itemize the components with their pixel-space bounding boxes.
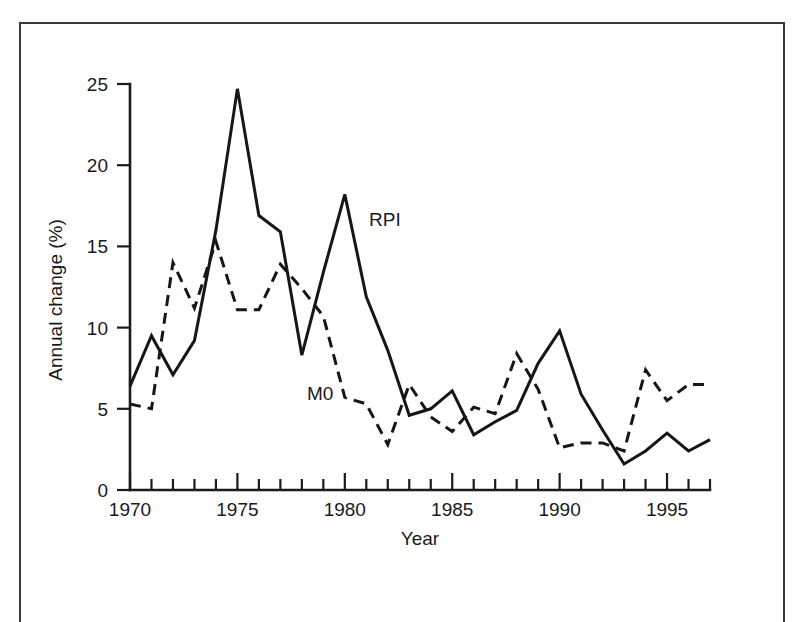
x-tick-label: 1995 bbox=[646, 499, 688, 520]
x-tick-label: 1990 bbox=[538, 499, 580, 520]
series-line-m0 bbox=[130, 242, 710, 451]
y-tick-label: 0 bbox=[97, 480, 108, 501]
series-label-rpi: RPI bbox=[369, 209, 401, 230]
series-line-rpi bbox=[130, 89, 710, 464]
y-axis: 0510152025 bbox=[87, 74, 130, 501]
x-tick-label: 1985 bbox=[431, 499, 473, 520]
y-tick-label: 10 bbox=[87, 318, 108, 339]
data-series-group bbox=[130, 89, 710, 464]
x-tick-label: 1970 bbox=[109, 499, 151, 520]
y-tick-label: 20 bbox=[87, 155, 108, 176]
x-axis-title: Year bbox=[401, 528, 440, 549]
y-tick-label: 25 bbox=[87, 74, 108, 95]
x-tick-label: 1980 bbox=[324, 499, 366, 520]
series-label-m0: M0 bbox=[307, 383, 333, 404]
x-axis: 197019751980198519901995 bbox=[109, 473, 710, 520]
y-axis-title: Annual change (%) bbox=[45, 219, 66, 381]
x-tick-label: 1975 bbox=[216, 499, 258, 520]
y-tick-label: 5 bbox=[97, 399, 108, 420]
y-tick-label: 15 bbox=[87, 236, 108, 257]
